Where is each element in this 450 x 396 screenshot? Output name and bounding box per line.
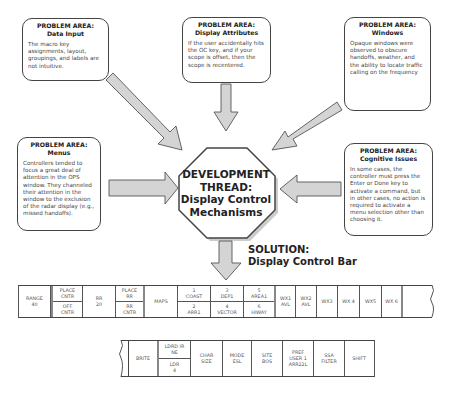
cell-value: HIWAY (251, 310, 266, 316)
cell-value: CNTR (61, 294, 74, 300)
cell-value: AVL (281, 302, 290, 308)
problem-body: The macro key assignments, layout, group… (28, 41, 103, 70)
map-6-button[interactable]: 6 HIWAY (244, 302, 274, 317)
ssa-filter-button[interactable]: SSA FILTER (314, 341, 345, 376)
problem-title: PROBLEM AREA: Display Attributes (188, 21, 265, 36)
problem-title: PROBLEM AREA: Cognitive Issues (350, 147, 427, 162)
mode-button[interactable]: MODE ESL (223, 341, 252, 376)
map-1-button[interactable]: 1 COAST (178, 286, 210, 302)
cell-value: VECTOR (217, 310, 237, 316)
map-4-button[interactable]: 4 VECTOR (211, 302, 243, 317)
brite-button[interactable]: BRITE (129, 341, 159, 376)
problem-title: PROBLEM AREA: Windows (350, 21, 425, 36)
problem-title-line1: PROBLEM AREA: (360, 147, 417, 154)
problem-box-menus: PROBLEM AREA: Menus Controllers tended t… (17, 137, 101, 231)
problem-title: PROBLEM AREA: Menus (23, 141, 95, 156)
empty-slot (403, 286, 423, 317)
problem-title-line2: Menus (48, 149, 71, 156)
solution-label: SOLUTION: Display Control Bar (248, 244, 357, 267)
cell-value: RR (126, 294, 133, 300)
problem-title-line1: PROBLEM AREA: (37, 22, 94, 29)
cell-value: CNTR (123, 310, 136, 316)
problem-title-line2: Windows (372, 29, 403, 36)
range-button[interactable]: RANGE 40 (19, 286, 51, 317)
cell-value: NE (171, 350, 178, 356)
wx1-button[interactable]: WX1 AVL (276, 286, 296, 317)
problem-title-line2: Cognitive Issues (360, 155, 417, 162)
cell-label: SHIFT (352, 356, 366, 362)
arrow-display-attributes-icon (214, 84, 238, 131)
problem-body: Controllers tended to focus a great deal… (23, 160, 95, 218)
cell-value: DEP1 (221, 294, 234, 300)
cell-label: WX3 (321, 299, 332, 305)
problem-title-line2: Display Attributes (195, 29, 258, 36)
problem-box-data-input: PROBLEM AREA: Data Input The macro key a… (22, 18, 109, 81)
rr-cntr-button[interactable]: RR CNTR (116, 302, 143, 317)
dev-thread-line2: THREAD: (200, 181, 252, 193)
place-rr-button[interactable]: PLACE RR (116, 286, 143, 302)
problem-body: In some cases, the controller must press… (350, 166, 427, 224)
wx5-button[interactable]: WX5 (360, 286, 382, 317)
cell-value: FILTER (321, 359, 336, 365)
dev-thread-line4: Mechanisms (190, 206, 263, 218)
off-cntr-button[interactable]: OFF CNTR (53, 302, 82, 317)
rr-button[interactable]: RR 20 (83, 286, 116, 317)
cell-value: 4 (173, 368, 176, 374)
shift-button[interactable]: SHIFT (345, 341, 373, 376)
cell-value: CNTR (61, 310, 74, 316)
cell-value: BOS (262, 359, 272, 365)
cell-label: BRITE (136, 356, 150, 362)
problem-body: If the user accidentally hits the OC key… (188, 40, 265, 69)
cell-value: COAST (186, 294, 202, 300)
cell-value: 40 (31, 302, 37, 308)
problem-box-cognitive-issues: PROBLEM AREA: Cognitive Issues In some c… (344, 143, 433, 236)
cell-label: WX5 (365, 299, 376, 305)
wx3-button[interactable]: WX3 (317, 286, 338, 317)
cell-value: AVL (302, 302, 311, 308)
dev-thread-line3: Display Control (181, 193, 271, 205)
ldr-dir-button[interactable]: LDRD IR NE (159, 341, 190, 359)
pref-button[interactable]: PREF USER 1 ARR22L (283, 341, 314, 376)
bar-break (121, 341, 129, 376)
maps-button[interactable]: MAPS (145, 286, 178, 317)
arrow-cognitive-icon (280, 175, 341, 203)
wx6-button[interactable]: WX 6 (382, 286, 403, 317)
cell-value: 20 (96, 302, 102, 308)
arrow-windows-icon (272, 102, 342, 150)
ldr-length-button[interactable]: LDR 4 (159, 359, 190, 376)
cell-label: WX 4 (342, 299, 355, 305)
problem-body: Opaque windows were observed to obscure … (350, 40, 425, 76)
cell-label: WX 6 (385, 299, 398, 305)
development-thread-label: DEVELOPMENT THREAD: Display Control Mech… (180, 168, 272, 218)
problem-box-display-attributes: PROBLEM AREA: Display Attributes If the … (182, 17, 271, 83)
maps-col-2: 3 DEP1 4 VECTOR (211, 286, 244, 317)
wx2-button[interactable]: WX2 AVL (296, 286, 317, 317)
map-5-button[interactable]: 5 AREA1 (244, 286, 274, 302)
cell-value: ESL (233, 359, 242, 365)
cell-label: MAPS (154, 299, 167, 305)
wx4-button[interactable]: WX 4 (338, 286, 360, 317)
leader-group: LDRD IR NE LDR 4 (159, 341, 191, 376)
problem-title-line1: PROBLEM AREA: (198, 21, 255, 28)
arrow-data-input-icon (106, 73, 182, 150)
problem-title: PROBLEM AREA: Data Input (28, 22, 103, 37)
place-cntr-button[interactable]: PLACE CNTR (53, 286, 82, 302)
cell-value: AREA1 (251, 294, 267, 300)
arrow-menus-icon (109, 172, 178, 204)
rr-group: PLACE RR RR CNTR (116, 286, 145, 317)
cell-value: SIZE (201, 359, 212, 365)
map-2-button[interactable]: 2 ARR1 (178, 302, 210, 317)
control-bar-top: RANGE 40 PLACE CNTR OFF CNTR RR 20 PLACE… (18, 285, 432, 318)
maps-col-3: 5 AREA1 6 HIWAY (244, 286, 276, 317)
problem-title-line2: Data Input (47, 30, 84, 37)
dev-thread-line1: DEVELOPMENT (182, 168, 270, 180)
arrow-solution-icon (211, 241, 241, 280)
center-group: PLACE CNTR OFF CNTR (51, 286, 83, 317)
map-3-button[interactable]: 3 DEP1 (211, 286, 243, 302)
problem-title-line1: PROBLEM AREA: (359, 21, 416, 28)
site-button[interactable]: SITE BOS (252, 341, 283, 376)
char-size-button[interactable]: CHAR SIZE (191, 341, 223, 376)
cell-value-2: ARR22L (289, 362, 308, 368)
maps-col-1: 1 COAST 2 ARR1 (178, 286, 211, 317)
solution-line2: Display Control Bar (248, 256, 357, 267)
